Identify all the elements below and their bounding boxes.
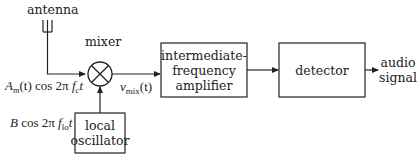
antenna-label: antenna	[27, 3, 78, 17]
local-oscillator-text: local oscillator	[75, 113, 125, 153]
detector-text: detector	[279, 43, 365, 97]
audio-signal-label: audio signal	[379, 55, 417, 85]
rf-signal-label: Am(t) cos 2π fct	[5, 79, 83, 93]
if-amplifier-text: intermediate- frequency amplifier	[161, 43, 247, 97]
mixer-output-label: vmix(t)	[120, 80, 152, 94]
antenna-icon	[43, 20, 52, 32]
mixer-icon	[88, 62, 112, 86]
rf-signal-line	[48, 32, 86, 74]
lo-signal-label: B cos 2π flot	[10, 116, 72, 130]
mixer-label: mixer	[85, 35, 121, 49]
